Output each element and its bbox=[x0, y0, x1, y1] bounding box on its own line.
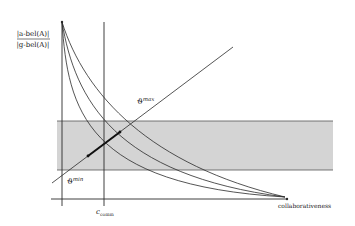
x-axis-label: collaborativeness bbox=[278, 202, 331, 209]
shaded-band bbox=[57, 121, 333, 170]
c-comm-label: ccomm bbox=[96, 208, 114, 217]
intersection-high bbox=[119, 131, 122, 134]
curve-1 bbox=[62, 22, 285, 197]
c-comm-label-sub: comm bbox=[100, 212, 114, 217]
theta-max-label: ϑmax bbox=[137, 96, 155, 106]
y-axis-label-numerator: |a-bel(A)| bbox=[17, 30, 50, 38]
theta-max-label-sup: max bbox=[143, 96, 155, 102]
x-axis-arrow bbox=[286, 198, 288, 200]
theta-min-label: ϑmin bbox=[67, 176, 84, 186]
y-axis-label-denominator: |g-bel(A)| bbox=[17, 41, 50, 49]
theta-min-label-sup: min bbox=[73, 176, 84, 182]
diagram: |a-bel(A)| |g-bel(A)| collaborativeness … bbox=[0, 0, 355, 226]
curve-3 bbox=[62, 22, 285, 197]
curve-2 bbox=[62, 22, 285, 197]
intersection-low bbox=[87, 155, 90, 158]
